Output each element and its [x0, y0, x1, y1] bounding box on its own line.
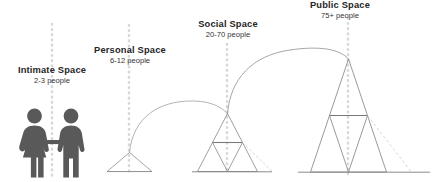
figure-left-head	[27, 109, 42, 124]
zone-title-social: Social Space	[180, 20, 276, 30]
zone-label-personal: Personal Space 6-12 people	[82, 46, 178, 65]
figures-joined-hands	[45, 140, 60, 144]
social-faint-extension	[243, 143, 273, 172]
arc-social-to-public	[228, 48, 349, 114]
zone-title-public: Public Space	[288, 1, 392, 11]
zone-count-public: 75+ people	[288, 12, 392, 20]
zone-title-intimate: Intimate Space	[4, 66, 100, 76]
proxemics-diagram: Intimate Space 2-3 people Personal Space…	[0, 0, 433, 182]
zone-title-personal: Personal Space	[82, 46, 178, 56]
zone-count-personal: 6-12 people	[82, 57, 178, 65]
arc-personal-to-social	[130, 101, 228, 153]
public-faint-extension	[368, 116, 412, 172]
zone-count-intimate: 2-3 people	[4, 77, 100, 85]
dotted-guide-lines	[52, 18, 348, 179]
figure-left-person	[19, 109, 49, 178]
figure-right-person	[57, 109, 84, 178]
figure-left-body	[19, 126, 49, 178]
zone-label-social: Social Space 20-70 people	[180, 20, 276, 39]
zone-label-intimate: Intimate Space 2-3 people	[4, 66, 100, 85]
zone-count-social: 20-70 people	[180, 31, 276, 39]
figure-right-body	[57, 126, 84, 178]
figure-right-head	[64, 109, 79, 124]
zone-label-public: Public Space 75+ people	[288, 1, 392, 20]
